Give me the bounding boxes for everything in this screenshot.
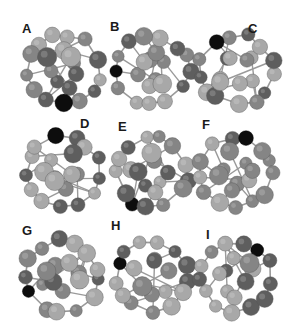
atom [115,288,130,303]
atom [71,198,85,212]
atom [263,254,277,268]
panel-label-c: C [248,22,257,35]
atom [230,95,247,112]
atom [34,193,49,208]
atom [266,166,280,180]
dopant-atom [110,65,122,77]
atom [19,270,33,284]
atom [157,198,170,211]
atom [72,93,88,109]
atom [126,260,142,276]
atom [117,185,135,203]
panel-label-b: B [110,20,119,33]
atom [68,66,84,82]
atom [193,53,206,66]
atom [148,44,165,61]
atom [53,199,67,213]
atom [252,39,267,54]
atom [70,305,82,317]
atom [194,71,207,84]
dopant-atom [55,94,73,112]
atom [212,73,229,90]
atom [223,51,238,66]
atom [266,52,283,69]
atom [20,169,33,182]
atom [195,259,209,273]
atom [86,289,103,306]
atom [227,290,242,305]
dopant-atom [209,35,224,50]
atom [26,82,42,98]
atom [147,253,162,268]
atom [223,305,240,322]
atom [37,262,56,281]
atom [245,163,260,178]
atom [141,131,153,143]
atom [64,166,81,183]
atom [158,285,172,299]
atom [88,187,100,199]
atom [209,300,221,312]
atom [62,80,77,95]
atom [129,163,147,181]
dopant-atom [22,285,34,297]
atom [61,47,81,67]
atom [232,76,247,91]
atom [135,27,153,45]
atom [117,245,130,258]
panel-label-g: G [22,224,32,237]
atom [137,198,154,215]
atom [236,236,252,252]
dopant-atom [114,257,127,270]
atom [21,69,33,81]
atom [64,144,83,163]
atom [153,130,165,142]
atom [213,267,227,281]
atom [196,185,211,200]
atom [240,53,254,67]
atom [78,244,96,262]
atom [246,74,260,88]
atom [90,262,105,277]
atom [193,171,207,185]
cluster-figure: A B C D E F G H I [0,0,290,331]
atom [161,263,177,279]
atom [218,236,233,251]
atom [222,31,236,45]
panel-d [14,116,110,220]
atom-cluster-graphic [188,14,284,118]
atom [170,41,185,56]
atom [133,236,146,249]
atom [192,153,208,169]
atom [133,277,152,296]
atom [237,273,254,290]
atom [146,306,160,320]
atom [153,74,172,93]
atom [24,183,38,197]
atom [142,143,162,163]
dopant-atom [239,131,254,146]
atom [78,32,92,46]
panel-label-f: F [202,118,210,131]
atom [70,271,89,290]
panel-label-a: A [22,22,31,35]
atom [148,185,163,200]
atom [37,47,56,66]
atom [164,138,181,155]
atom [240,253,259,272]
atom [192,272,206,286]
atom [209,166,228,185]
atom [112,50,124,62]
atom [229,201,243,215]
atom [254,142,271,159]
atom [160,165,175,180]
atom [48,303,65,320]
atom [250,95,265,110]
atom [45,27,61,43]
atom [211,194,229,212]
atom [35,242,49,256]
atom [169,245,181,257]
atom [163,298,181,316]
panel-h [104,220,200,324]
atom-cluster-graphic [14,116,110,220]
